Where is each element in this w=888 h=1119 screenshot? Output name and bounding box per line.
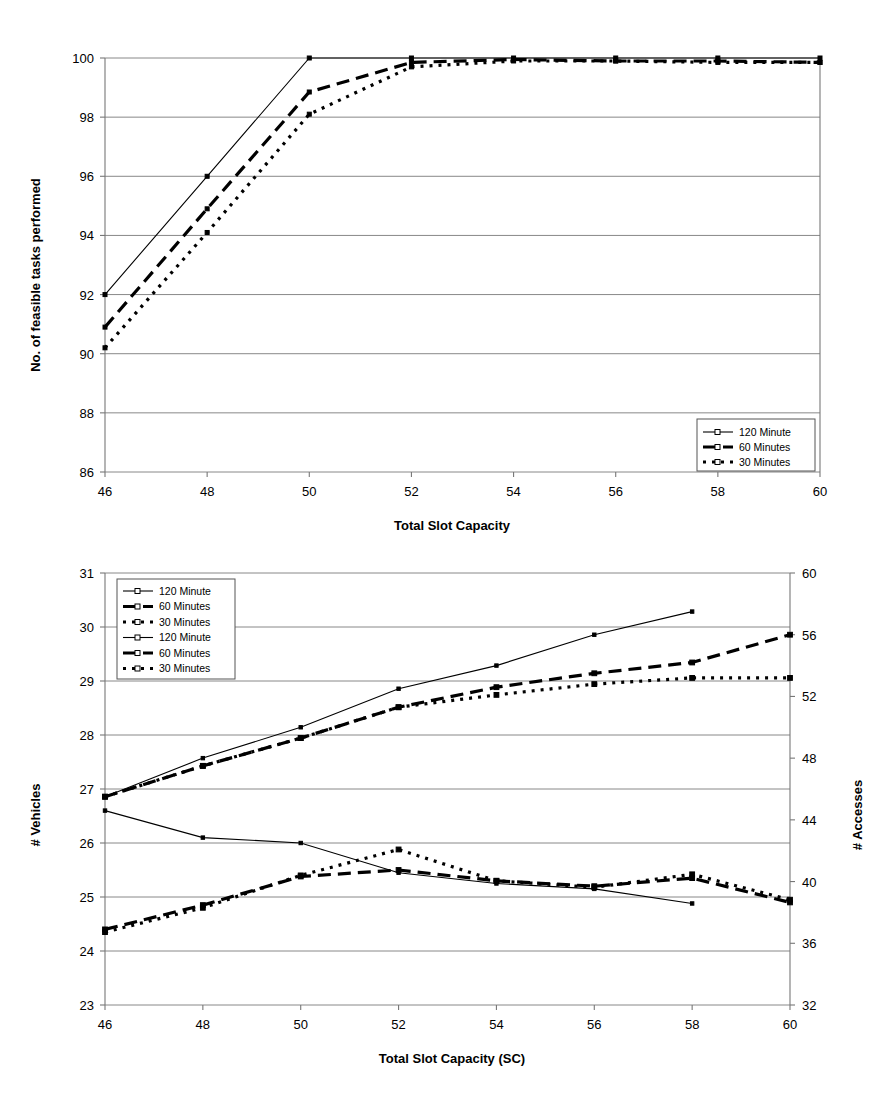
series-marker <box>788 897 793 902</box>
y-tick-label-left: 25 <box>80 890 94 905</box>
figure-page: 86889092949698100 4648505254565860 120 M… <box>0 0 888 1119</box>
series-marker <box>409 65 413 69</box>
y-tick-labels-top: 86889092949698100 <box>72 51 94 480</box>
series-marker <box>690 902 693 905</box>
series-marker <box>103 325 107 329</box>
caption-strip <box>0 1075 888 1119</box>
series-marker <box>593 633 596 636</box>
series-marker <box>409 56 413 60</box>
legend-label-5: 30 Minutes <box>159 662 210 674</box>
x-tick-label: 50 <box>302 484 316 499</box>
series-marker <box>396 868 401 873</box>
legend-marker-1 <box>135 604 140 609</box>
axes-top <box>100 58 820 477</box>
y-axis-title-left: # Vehicles <box>28 784 43 847</box>
series-marker <box>103 346 107 350</box>
y-tick-label: 88 <box>80 406 94 421</box>
y-tick-label: 96 <box>80 169 94 184</box>
legend-marker-5 <box>135 666 140 671</box>
series-marker <box>690 660 695 665</box>
x-axis-title-bottom: Total Slot Capacity (SC) <box>379 1051 525 1066</box>
series-marker <box>495 664 498 667</box>
y-tick-label-right: 56 <box>802 628 816 643</box>
x-tick-label: 52 <box>391 1017 405 1032</box>
y-tick-label: 98 <box>80 110 94 125</box>
series-marker <box>298 736 303 741</box>
series-marker <box>716 60 720 64</box>
series-marker <box>103 794 108 799</box>
series-marker <box>205 174 209 178</box>
x-tick-label: 58 <box>711 484 725 499</box>
y-axis-title-top: No. of feasible tasks performed <box>28 178 43 372</box>
series-marker <box>299 726 302 729</box>
x-tick-label: 46 <box>98 1017 112 1032</box>
y-tick-label-right: 44 <box>802 813 816 828</box>
y-tick-label-left: 31 <box>80 566 94 581</box>
legend-label-2: 30 Minutes <box>159 616 210 628</box>
y-tick-label-right: 32 <box>802 998 816 1013</box>
series-marker <box>818 60 822 64</box>
chart-bottom: 232425262728293031 3236404448525660 4648… <box>0 545 888 1075</box>
y-tick-label-left: 24 <box>80 944 94 959</box>
chart-top: 86889092949698100 4648505254565860 120 M… <box>0 0 888 545</box>
legend-label-4: 60 Minutes <box>159 647 210 659</box>
legend-marker-1 <box>715 445 720 450</box>
series-marker <box>512 59 516 63</box>
series-group-top <box>103 56 822 350</box>
series-marker <box>592 682 597 687</box>
y-axis-title-right: # Accesses <box>850 780 865 850</box>
series-marker <box>201 756 204 759</box>
x-tick-label: 48 <box>200 484 214 499</box>
series-marker <box>690 610 693 613</box>
legend-label-2: 30 Minutes <box>739 456 790 468</box>
series-marker <box>103 293 107 297</box>
series-line-2 <box>105 678 790 797</box>
series-marker <box>205 230 209 234</box>
x-tick-label: 58 <box>685 1017 699 1032</box>
series-marker <box>690 676 695 681</box>
x-tick-label: 46 <box>98 484 112 499</box>
legend-marker-0 <box>135 589 140 594</box>
series-marker <box>409 60 413 64</box>
y-tick-label-right: 36 <box>802 936 816 951</box>
x-tick-label: 52 <box>404 484 418 499</box>
legend-label-0: 120 Minute <box>159 585 211 597</box>
series-marker <box>205 207 209 211</box>
series-marker <box>494 692 499 697</box>
series-marker <box>299 841 302 844</box>
legend-marker-2 <box>715 460 720 465</box>
legend-marker-0 <box>715 430 720 435</box>
legend-top[interactable]: 120 Minute60 Minutes30 Minutes <box>697 419 815 471</box>
gridlines-top <box>105 58 820 472</box>
x-tick-label: 54 <box>489 1017 503 1032</box>
series-marker <box>818 56 822 60</box>
x-tick-label: 60 <box>783 1017 797 1032</box>
y-tick-label: 90 <box>80 347 94 362</box>
legend-label-1: 60 Minutes <box>739 441 790 453</box>
series-marker <box>200 763 205 768</box>
legend-marker-3 <box>135 635 140 640</box>
series-line-5 <box>105 850 790 933</box>
series-marker <box>307 112 311 116</box>
y-tick-label: 92 <box>80 288 94 303</box>
series-marker <box>592 885 597 890</box>
y-tick-label: 100 <box>72 51 94 66</box>
y-tick-label-right: 60 <box>802 566 816 581</box>
legend-marker-2 <box>135 620 140 625</box>
legend-label-0: 120 Minute <box>739 426 791 438</box>
x-tick-labels-bottom: 4648505254565860 <box>98 1017 797 1032</box>
series-line-4 <box>105 870 790 929</box>
legend-bottom[interactable]: 120 Minute60 Minutes30 Minutes120 Minute… <box>117 579 235 679</box>
series-marker <box>396 705 401 710</box>
y-tick-label-right: 52 <box>802 689 816 704</box>
series-marker <box>307 90 311 94</box>
x-tick-label: 48 <box>196 1017 210 1032</box>
y-tick-labels-right: 3236404448525660 <box>802 566 816 1013</box>
y-tick-label-left: 26 <box>80 836 94 851</box>
y-tick-label-left: 23 <box>80 998 94 1013</box>
x-tick-label: 50 <box>293 1017 307 1032</box>
series-marker <box>307 56 311 60</box>
series-marker <box>788 632 793 637</box>
series-marker <box>103 930 108 935</box>
series-marker <box>298 873 303 878</box>
